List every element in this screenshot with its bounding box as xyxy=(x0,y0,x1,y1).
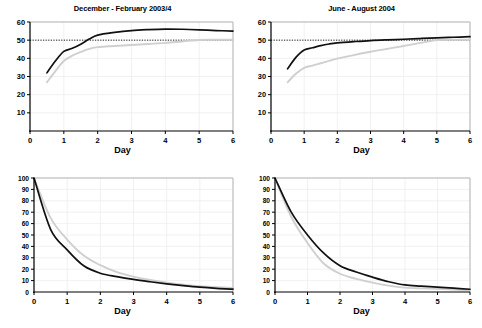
y-tick-label: 40 xyxy=(258,54,266,63)
y-tick-label: 50 xyxy=(22,232,30,239)
x-tick-label: 2 xyxy=(98,297,102,306)
x-tick-label: 4 xyxy=(165,297,170,306)
y-tick-label: 90 xyxy=(263,186,271,193)
y-tick-label: 0 xyxy=(266,289,270,296)
y-tick-label: 40 xyxy=(17,54,25,63)
plot-area-bottom-left: 10203040506070809010001234560 xyxy=(4,168,241,328)
x-tick-label: 3 xyxy=(368,136,372,145)
y-tick-label: 20 xyxy=(263,266,271,273)
x-tick-label: 1 xyxy=(62,136,67,145)
x-tick-label: 3 xyxy=(131,297,135,306)
x-axis-label-top-left: Day xyxy=(4,145,241,155)
x-tick-label: 0 xyxy=(273,297,277,306)
y-tick-label: 0 xyxy=(25,289,29,296)
x-tick-label: 1 xyxy=(302,136,307,145)
series-line-black xyxy=(47,29,233,73)
x-tick-label: 5 xyxy=(198,297,203,306)
series-line-gray xyxy=(288,40,470,83)
y-tick-label: 20 xyxy=(22,266,30,273)
x-tick-label: 6 xyxy=(231,136,235,145)
y-tick-label: 90 xyxy=(22,186,30,193)
plot-area-top-left: 1020304050600123456 xyxy=(4,4,241,167)
x-tick-label: 6 xyxy=(231,297,235,306)
y-tick-label: 30 xyxy=(263,254,271,261)
y-tick-label: 50 xyxy=(258,36,266,45)
y-tick-label: 80 xyxy=(263,197,271,204)
x-axis-label-bottom-right: Day xyxy=(245,306,478,316)
x-tick-label: 5 xyxy=(435,136,440,145)
y-tick-label: 40 xyxy=(22,243,30,250)
chart-panel-bottom-left: 10203040506070809010001234560Day xyxy=(4,168,241,328)
x-tick-label: 5 xyxy=(197,136,202,145)
chart-panel-bottom-right: 10203040506070809010001234560Day xyxy=(245,168,478,328)
x-axis-label-top-right: Day xyxy=(245,145,478,155)
x-tick-label: 1 xyxy=(65,297,70,306)
x-tick-label: 1 xyxy=(305,297,310,306)
y-tick-label: 60 xyxy=(22,220,30,227)
y-tick-label: 20 xyxy=(258,90,266,99)
y-tick-label: 10 xyxy=(17,108,25,117)
y-tick-label: 30 xyxy=(258,72,266,81)
series-line-gray xyxy=(47,40,233,83)
chart-panel-top-left: December - February 2003/410203040506001… xyxy=(4,4,241,167)
y-tick-label: 10 xyxy=(22,277,30,284)
y-tick-label: 70 xyxy=(22,209,30,216)
x-tick-label: 2 xyxy=(96,136,100,145)
y-tick-label: 10 xyxy=(258,108,266,117)
y-tick-label: 10 xyxy=(263,277,271,284)
plot-area-top-right: 1020304050600123456 xyxy=(245,4,478,167)
chart-panel-top-right: June - August 20041020304050600123456Day xyxy=(245,4,478,167)
x-tick-label: 6 xyxy=(468,136,472,145)
x-tick-label: 2 xyxy=(335,136,339,145)
x-tick-label: 4 xyxy=(403,297,408,306)
x-axis-label-bottom-left: Day xyxy=(4,306,241,316)
x-tick-label: 0 xyxy=(32,297,36,306)
x-tick-label: 3 xyxy=(370,297,374,306)
y-tick-label: 50 xyxy=(17,36,25,45)
x-tick-label: 0 xyxy=(28,136,32,145)
x-tick-label: 2 xyxy=(338,297,342,306)
y-tick-label: 20 xyxy=(17,90,25,99)
x-tick-label: 3 xyxy=(129,136,133,145)
plot-area-bottom-right: 10203040506070809010001234560 xyxy=(245,168,478,328)
x-tick-label: 4 xyxy=(163,136,168,145)
y-tick-label: 30 xyxy=(17,72,25,81)
y-tick-label: 80 xyxy=(22,197,30,204)
y-tick-label: 70 xyxy=(263,209,271,216)
y-tick-label: 30 xyxy=(22,254,30,261)
x-tick-label: 4 xyxy=(402,136,407,145)
y-tick-label: 60 xyxy=(17,18,25,27)
y-tick-label: 40 xyxy=(263,243,271,250)
y-tick-label: 60 xyxy=(258,18,266,27)
y-tick-label: 60 xyxy=(263,220,271,227)
x-tick-label: 6 xyxy=(468,297,472,306)
y-tick-label: 100 xyxy=(18,175,29,182)
y-tick-label: 50 xyxy=(263,232,271,239)
y-tick-label: 100 xyxy=(259,175,270,182)
figure-container: December - February 2003/410203040506001… xyxy=(0,0,482,328)
x-tick-label: 5 xyxy=(435,297,440,306)
x-tick-label: 0 xyxy=(269,136,273,145)
